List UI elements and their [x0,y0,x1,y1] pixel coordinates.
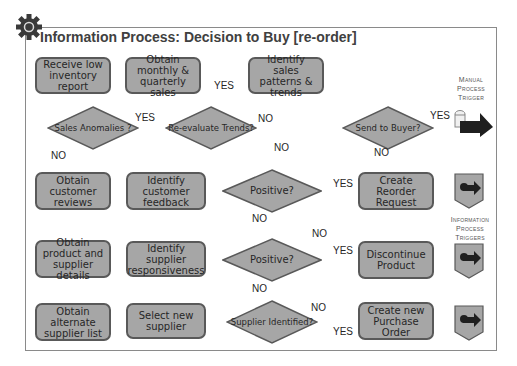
yes-label-sales: YES [214,80,234,91]
yes-label-positive2: YES [333,245,353,256]
discontinue-product-step: Discontinue Product [358,241,434,279]
create-reorder-request-step: Create Reorder Request [358,172,434,210]
supplier-identified-decision: Supplier Identified? [226,300,318,344]
gear-arrow-trigger-icon [454,173,484,209]
no-label-reevaluate: NO [258,113,273,124]
information-triggers-legend: Information Process Triggers [440,215,500,242]
create-purchase-order-step: Create new Purchase Order [358,302,434,340]
manual-trigger-legend: Manual Process Trigger [446,75,496,102]
positive-feedback-decision: Positive? [222,169,322,213]
yes-label-anomalies: YES [135,112,155,123]
manual-trigger-arrow-icon [452,108,494,138]
reevaluate-trends-decision: Re-evaluate Trends? [165,106,257,150]
select-new-supplier-step: Select new supplier [126,303,206,339]
yes-label-positive1: YES [333,178,353,189]
identify-patterns-step: Identify sales patterns & trends [248,57,324,94]
obtain-alternate-supplier-list-step: Obtain alternate supplier list [35,303,111,341]
no-label-send-buyer: NO [374,147,389,158]
identify-customer-feedback-step: Identify customer feedback [126,172,206,210]
send-to-buyer-decision: Send to Buyer? [342,106,434,150]
gear-arrow-trigger-icon [454,243,484,279]
no-label-dashed: NO [274,142,289,153]
identify-supplier-responsiveness-step: Identify supplier responsiveness [126,241,206,277]
no-label-positive2: NO [252,283,267,294]
yes-label-send-buyer: YES [430,110,450,121]
gear-icon [15,13,43,41]
no-label-anomalies: NO [51,150,66,161]
obtain-sales-step: Obtain monthly & quarterly sales [125,57,201,94]
page-title: Information Process: Decision to Buy [re… [40,29,357,45]
sales-anomalies-decision: Sales Anomalies ? [47,106,139,150]
gear-arrow-trigger-icon [454,305,484,341]
receive-inventory-report-step: Receive low inventory report [35,57,111,94]
yes-label-supplier: YES [333,326,353,337]
no-label-supplier: NO [311,302,326,313]
no-label-positive1: NO [252,213,267,224]
no-label-dashed2: NO [312,228,327,239]
obtain-customer-reviews-step: Obtain customer reviews [35,172,111,210]
obtain-product-supplier-details-step: Obtain product and supplier details [35,240,111,278]
positive-responsiveness-decision: Positive? [222,238,322,282]
